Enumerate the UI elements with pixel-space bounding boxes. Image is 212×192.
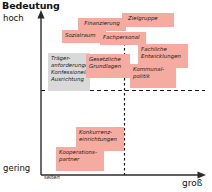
item-box-finanzierung[interactable]: Finanzierung bbox=[78, 18, 126, 31]
y-axis-low-label: gering bbox=[3, 163, 30, 173]
y-axis-high-label: hoch bbox=[3, 13, 24, 23]
x-axis-high-label: groß bbox=[182, 178, 202, 188]
x-axis-low-label: selten bbox=[44, 174, 60, 180]
item-box-kommunalpolitik[interactable]: Kommunal- politik bbox=[130, 64, 176, 88]
portfolio-matrix-chart: Bedeutung hoch gering selten groß Träger… bbox=[0, 0, 212, 192]
item-box-kooperationspartner[interactable]: Kooperations- partner bbox=[56, 147, 104, 171]
item-box-fachpersonal[interactable]: Fachpersonal bbox=[100, 32, 146, 45]
y-axis-arrowhead bbox=[37, 10, 44, 19]
item-box-gesetzliche-grundlagen[interactable]: Gesetzliche Grundlagen bbox=[86, 54, 130, 78]
item-box-traegeranforderungen[interactable]: Träger- anforderungen Konfessionelle Aus… bbox=[48, 53, 90, 91]
item-box-zielgruppe[interactable]: Zielgruppe bbox=[122, 13, 174, 27]
y-axis-title: Bedeutung bbox=[2, 0, 60, 11]
